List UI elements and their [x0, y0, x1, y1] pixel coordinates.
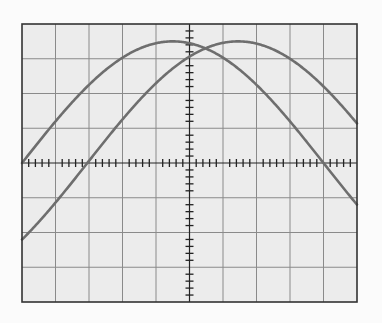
oscilloscope-display	[0, 0, 382, 323]
